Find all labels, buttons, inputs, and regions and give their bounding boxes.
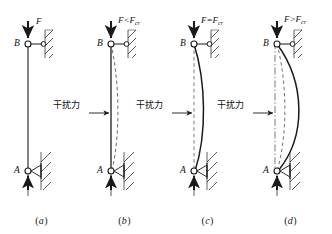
disturbing-force-label: 干扰力 [136, 101, 164, 110]
disturbing-force-label: 干扰力 [217, 101, 245, 110]
wall-hatch-bottom [41, 152, 51, 190]
force-label-b-main: F<F [118, 15, 135, 25]
pin-support-a [197, 163, 207, 179]
node-label-b: B [180, 39, 186, 49]
caption-b: (b) [83, 215, 166, 226]
caption-b-letter: b [122, 215, 127, 226]
panel-d-drawing [249, 0, 332, 234]
panel-a-drawing [0, 0, 83, 234]
caption-c: (c) [166, 215, 249, 226]
wall-hatch-bottom [124, 152, 134, 190]
node-b-pin [274, 41, 280, 47]
wall-hatch-bottom [290, 152, 300, 190]
force-label-c-main: F=F [201, 15, 218, 25]
intermediate-shape-dashed [277, 44, 285, 171]
panel-b: B A F<Fcr 干扰力 (b) [83, 0, 166, 234]
top-link-pin [290, 42, 295, 47]
caption-d-letter: d [288, 215, 293, 226]
force-label-a: F [36, 17, 42, 26]
pin-support-a [31, 163, 41, 179]
deflected-shape-dashed [111, 44, 118, 171]
node-a-pin [108, 168, 114, 174]
node-label-b: B [263, 39, 269, 49]
panel-c-drawing [166, 0, 249, 234]
force-label-b: F<Fcr [118, 16, 140, 25]
force-label-b-sub: cr [135, 19, 140, 26]
column-solid-curved [194, 44, 204, 171]
caption-c-letter: c [205, 215, 210, 226]
force-label-c-sub: cr [218, 19, 223, 26]
disturbing-force-label: 干扰力 [53, 101, 81, 110]
node-label-a: A [263, 166, 269, 176]
node-label-a: A [180, 166, 186, 176]
caption-a-letter: a [39, 215, 44, 226]
node-a-pin [25, 168, 31, 174]
force-label-d: F>Fcr [284, 15, 306, 24]
panel-a: B A F (a) [0, 0, 83, 234]
caption-d: (d) [249, 215, 332, 226]
node-b-pin [25, 41, 31, 47]
pin-support-a [114, 163, 124, 179]
node-label-a: A [97, 166, 103, 176]
column-solid-curved-large [277, 44, 299, 171]
node-label-b: B [97, 39, 103, 49]
force-label-d-sub: cr [301, 18, 306, 25]
caption-a: (a) [0, 215, 83, 226]
force-label-d-main: F>F [284, 14, 301, 24]
top-link-pin [124, 42, 129, 47]
node-label-b: B [14, 39, 20, 49]
figure-canvas: B A F (a) [0, 0, 332, 234]
node-a-pin [191, 168, 197, 174]
top-link-pin [207, 42, 212, 47]
panel-c: B A F=Fcr 干扰力 (c) [166, 0, 249, 234]
wall-hatch-bottom [207, 152, 217, 190]
node-b-pin [108, 41, 114, 47]
panel-b-drawing [83, 0, 166, 234]
node-label-a: A [14, 166, 20, 176]
node-a-pin [274, 168, 280, 174]
force-label-c: F=Fcr [201, 16, 223, 25]
node-b-pin [191, 41, 197, 47]
panel-d: B A F>Fcr 干扰力 (d) [249, 0, 332, 234]
top-link-pin [41, 42, 46, 47]
